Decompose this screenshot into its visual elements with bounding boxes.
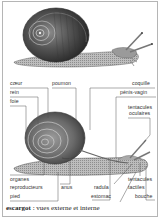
label-tentacules-tactiles-2: tactiles [128, 184, 145, 190]
figure-caption: escargot : vues externe et interne [6, 204, 100, 212]
label-tentacules-tactiles-1: tentacules [128, 176, 152, 182]
label-coquille: coquille [132, 80, 150, 86]
label-poumon: poumon [52, 80, 71, 86]
label-organes-reproducteurs-2: reproducteurs [10, 184, 43, 190]
caption-title: escargot [6, 204, 31, 212]
label-coeur: cœur [10, 80, 22, 86]
label-anus: anus [61, 184, 72, 190]
label-radula: radula [94, 184, 109, 190]
label-bouche: bouche [135, 193, 152, 199]
label-rein: rein [10, 89, 19, 95]
label-tentacules-oculaires-2: oculaires [129, 110, 150, 116]
label-penis-vagin: pénis-vagin [120, 89, 147, 95]
label-foie: foie [10, 98, 19, 104]
label-estomac: estomac [91, 193, 111, 199]
caption-subtitle: : vues externe et interne [31, 204, 100, 212]
label-organes-reproducteurs-1: organes [10, 176, 29, 182]
label-pied: pied [10, 193, 20, 199]
